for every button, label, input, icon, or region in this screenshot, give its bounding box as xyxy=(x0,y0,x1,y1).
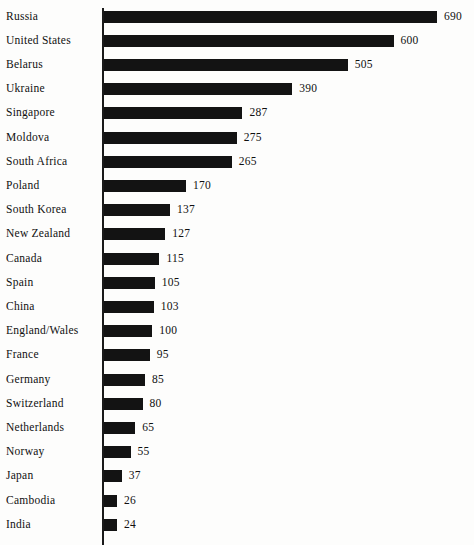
category-label: South Korea xyxy=(6,203,67,216)
bar xyxy=(104,374,145,386)
bar xyxy=(104,228,165,240)
bar-value-label: 103 xyxy=(161,300,179,313)
bar xyxy=(104,107,242,119)
category-label: Germany xyxy=(6,373,51,386)
bar xyxy=(104,180,186,192)
bar xyxy=(104,204,170,216)
bar-value-label: 390 xyxy=(299,82,317,95)
category-label: Ukraine xyxy=(6,82,45,95)
bar-row: Russia690 xyxy=(0,3,474,30)
bar-row: France95 xyxy=(0,342,474,369)
bar-row: Singapore287 xyxy=(0,100,474,127)
bar xyxy=(104,132,237,144)
category-label: Norway xyxy=(6,445,45,458)
bar xyxy=(104,495,117,507)
bar-row: New Zealand127 xyxy=(0,221,474,248)
category-label: India xyxy=(6,518,31,531)
bar-row: Cambodia26 xyxy=(0,487,474,514)
bar-value-label: 505 xyxy=(355,58,373,71)
bar-value-label: 95 xyxy=(157,348,169,361)
category-label: South Africa xyxy=(6,155,67,168)
category-label: Belarus xyxy=(6,58,43,71)
bar-value-label: 690 xyxy=(444,9,462,22)
bar-value-label: 170 xyxy=(193,179,211,192)
bar-chart: Russia690United States600Belarus505Ukrai… xyxy=(0,0,474,545)
category-label: China xyxy=(6,300,35,313)
bar-row: South Korea137 xyxy=(0,197,474,224)
bar xyxy=(104,398,143,410)
bar-value-label: 600 xyxy=(401,34,419,47)
bar xyxy=(104,253,159,265)
category-label: Russia xyxy=(6,10,38,23)
category-label: Cambodia xyxy=(6,494,55,507)
bar-value-label: 287 xyxy=(249,106,267,119)
bar-value-label: 37 xyxy=(129,469,141,482)
bar-value-label: 85 xyxy=(152,372,164,385)
bar-row: Belarus505 xyxy=(0,51,474,78)
bar xyxy=(104,277,155,289)
bar-row: Ukraine390 xyxy=(0,76,474,103)
category-label: Poland xyxy=(6,179,39,192)
category-label: France xyxy=(6,349,39,362)
bar xyxy=(104,301,154,313)
bar-row: Canada115 xyxy=(0,245,474,272)
bar-row: United States600 xyxy=(0,27,474,54)
category-label: England/Wales xyxy=(6,324,79,337)
bar-value-label: 24 xyxy=(124,518,136,531)
bar xyxy=(104,156,232,168)
category-label: Switzerland xyxy=(6,397,64,410)
category-label: New Zealand xyxy=(6,228,70,241)
bar-row: India24 xyxy=(0,511,474,538)
bar-row: Spain105 xyxy=(0,269,474,296)
bar xyxy=(104,35,394,47)
bar-row: South Africa265 xyxy=(0,148,474,175)
category-label: Moldova xyxy=(6,131,49,144)
bar-value-label: 105 xyxy=(162,276,180,289)
bar-row: Moldova275 xyxy=(0,124,474,151)
bar xyxy=(104,325,152,337)
bar-value-label: 80 xyxy=(150,397,162,410)
bar xyxy=(104,11,437,23)
bar xyxy=(104,59,348,71)
category-label: Netherlands xyxy=(6,421,64,434)
bar-row: Norway55 xyxy=(0,439,474,466)
bar-value-label: 26 xyxy=(124,493,136,506)
bar-value-label: 265 xyxy=(239,155,257,168)
bar-value-label: 55 xyxy=(138,445,150,458)
bar-value-label: 137 xyxy=(177,203,195,216)
bar xyxy=(104,349,150,361)
bar-row: England/Wales100 xyxy=(0,318,474,345)
bar-value-label: 115 xyxy=(166,251,184,264)
bar-row: Poland170 xyxy=(0,172,474,199)
category-label: Canada xyxy=(6,252,42,265)
bar xyxy=(104,422,135,434)
bar xyxy=(104,519,117,531)
bar-value-label: 127 xyxy=(172,227,190,240)
bar-row: Switzerland80 xyxy=(0,390,474,417)
bar-value-label: 275 xyxy=(244,130,262,143)
category-label: Japan xyxy=(6,470,33,483)
bar xyxy=(104,83,292,95)
bar-row: China103 xyxy=(0,293,474,320)
category-label: United States xyxy=(6,34,71,47)
bar-row: Germany85 xyxy=(0,366,474,393)
category-label: Spain xyxy=(6,276,33,289)
bar-row: Netherlands65 xyxy=(0,414,474,441)
category-label: Singapore xyxy=(6,107,55,120)
bar-value-label: 65 xyxy=(142,421,154,434)
bar xyxy=(104,470,122,482)
bar-rows-container: Russia690United States600Belarus505Ukrai… xyxy=(0,0,474,545)
bar xyxy=(104,446,131,458)
bar-value-label: 100 xyxy=(159,324,177,337)
bar-row: Japan37 xyxy=(0,463,474,490)
